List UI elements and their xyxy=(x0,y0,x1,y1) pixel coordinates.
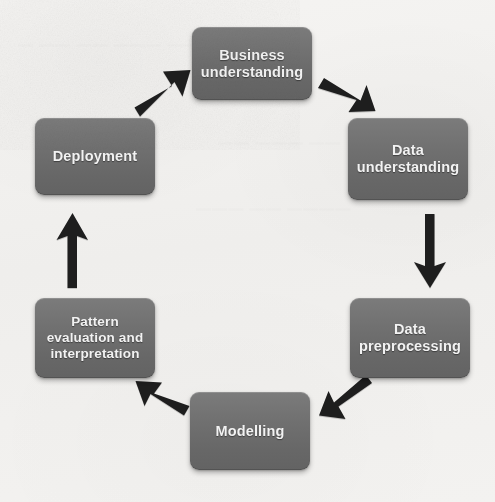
arrow-data-understanding-to-data-preprocessing xyxy=(414,214,446,288)
arrow-pattern-evaluation-to-deployment xyxy=(57,213,89,288)
node-business-understanding[interactable]: Business understanding xyxy=(192,27,312,100)
arrow-data-preprocessing-to-modelling xyxy=(319,375,372,419)
node-data-preprocessing[interactable]: Data preprocessing xyxy=(350,298,470,378)
node-deployment-label: Deployment xyxy=(48,148,143,165)
arrow-business-understanding-to-data-understanding xyxy=(318,78,376,112)
node-business-understanding-label: Business understanding xyxy=(196,47,309,81)
arrow-deployment-to-business-understanding xyxy=(135,70,191,117)
node-modelling[interactable]: Modelling xyxy=(190,392,310,470)
node-data-understanding[interactable]: Data understanding xyxy=(348,118,468,200)
bleed-through-text-lower: ——— —— ———— xyxy=(196,198,352,219)
node-modelling-label: Modelling xyxy=(210,423,289,440)
process-cycle-diagram: — —— —— ——— —— —— ——— —— ——— —— ———— xyxy=(0,0,495,502)
node-deployment[interactable]: Deployment xyxy=(35,118,155,195)
node-pattern-evaluation-label: Pattern evaluation and interpretation xyxy=(42,314,149,362)
arrow-modelling-to-pattern-evaluation xyxy=(136,381,190,416)
bleed-through-text-middle: —— ——— —— xyxy=(218,132,341,153)
node-data-preprocessing-label: Data preprocessing xyxy=(354,321,466,355)
node-pattern-evaluation[interactable]: Pattern evaluation and interpretation xyxy=(35,298,155,378)
bleed-through-text-top: — —— —— ——— —— xyxy=(18,34,200,55)
node-data-understanding-label: Data understanding xyxy=(352,142,465,176)
